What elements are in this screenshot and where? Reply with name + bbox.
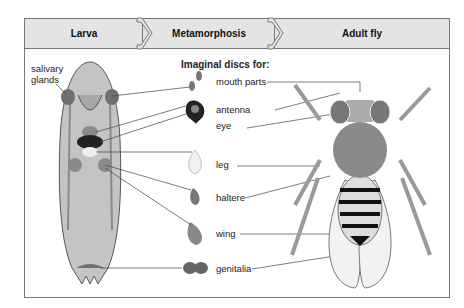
arrow-icon: [137, 18, 283, 49]
adult-fly-illustration: [292, 85, 430, 288]
discs-title: Imaginal discs for:: [181, 59, 269, 70]
disc-label-leg: leg: [216, 159, 229, 170]
disc-label-genitalia: genitalia: [216, 263, 251, 274]
disc-label-mouth-parts: mouth parts: [216, 76, 266, 87]
disc-label-wing: wing: [216, 228, 236, 239]
diagram-graphics: [0, 0, 464, 308]
disc-label-eye: eye: [216, 120, 231, 131]
larva-illustration: [59, 62, 120, 284]
disc-icons: [183, 71, 208, 274]
salivary-glands-label: salivaryglands: [31, 63, 63, 85]
disc-label-antenna: antenna: [216, 104, 250, 115]
disc-label-haltere: haltere: [216, 192, 245, 203]
